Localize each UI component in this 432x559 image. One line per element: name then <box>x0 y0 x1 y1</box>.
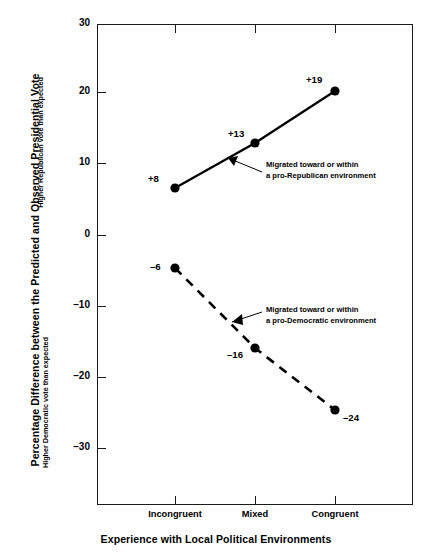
series-democratic-point-incongruent <box>170 263 179 272</box>
data-label-democratic-congruent: –24 <box>343 412 359 423</box>
series-republican-point-mixed <box>250 138 259 147</box>
data-label-republican-mixed: +13 <box>228 128 244 139</box>
data-label-republican-incongruent: +8 <box>148 173 159 184</box>
series-democratic-line <box>175 268 335 410</box>
chart-plot-area <box>0 0 432 559</box>
annotation-democratic: Migrated toward or within a pro-Democrat… <box>266 305 376 327</box>
series-republican-point-congruent <box>330 86 339 95</box>
data-label-democratic-mixed: –16 <box>227 349 243 360</box>
annotation-democratic-line2: a pro-Democratic environment <box>266 316 376 327</box>
chart-figure: Percentage Difference between the Predic… <box>0 0 432 559</box>
series-democratic-point-mixed <box>250 343 259 352</box>
annotation-democratic-line1: Migrated toward or within <box>266 305 376 316</box>
data-label-republican-congruent: +19 <box>306 74 322 85</box>
series-democratic-point-congruent <box>330 405 339 414</box>
annotation-republican-line2: a pro-Republican environment <box>266 171 376 182</box>
annotation-republican: Migrated toward or within a pro-Republic… <box>266 160 376 182</box>
data-label-democratic-incongruent: –6 <box>150 261 161 272</box>
annotation-republican-line1: Migrated toward or within <box>266 160 376 171</box>
annotation-democratic-arrowhead <box>232 314 243 325</box>
series-republican-point-incongruent <box>170 183 179 192</box>
